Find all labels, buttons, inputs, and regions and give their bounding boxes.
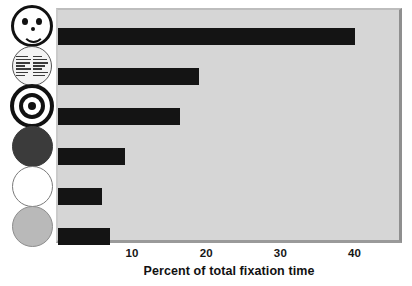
newsprint-column-right xyxy=(33,51,48,81)
x-tick-20: 20 xyxy=(200,246,213,260)
white-circle-icon xyxy=(12,166,53,207)
bar-yellow-disc xyxy=(58,228,110,245)
bar-bullseye xyxy=(58,108,180,125)
face-left-eye-icon xyxy=(22,18,28,25)
x-axis-tick-labels: 10203040 xyxy=(56,246,402,262)
bar-newsprint xyxy=(58,68,199,85)
bar-red-disc xyxy=(58,148,125,165)
stimulus-cell-yellow-disc xyxy=(8,206,56,246)
stimulus-cell-newsprint xyxy=(8,46,56,86)
bullseye-icon xyxy=(10,84,54,128)
newsprint-column-left xyxy=(16,51,31,81)
bullseye-center-dot-icon xyxy=(28,102,36,110)
fixation-time-bar-chart: 10203040 Percent of total fixation time xyxy=(0,0,412,286)
bar-face xyxy=(58,28,355,45)
bar-white-disc xyxy=(58,188,102,205)
stimulus-cell-face xyxy=(8,6,56,46)
x-axis-title: Percent of total fixation time xyxy=(56,264,402,278)
x-tick-30: 30 xyxy=(274,246,287,260)
face-mouth-icon xyxy=(22,28,45,43)
plot-area xyxy=(56,8,402,243)
face-right-eye-icon xyxy=(36,18,42,25)
x-tick-40: 40 xyxy=(348,246,361,260)
newsprint-circle-icon xyxy=(12,46,52,86)
stimulus-cell-white-disc xyxy=(8,166,56,206)
stimulus-cell-bullseye xyxy=(8,86,56,126)
dark-filled-circle-icon xyxy=(12,126,53,167)
bars-container xyxy=(58,10,399,240)
stimulus-icon-column xyxy=(8,6,56,246)
gray-filled-circle-icon xyxy=(12,206,53,247)
x-tick-10: 10 xyxy=(126,246,139,260)
smiley-face-icon xyxy=(11,5,53,47)
stimulus-cell-red-disc xyxy=(8,126,56,166)
